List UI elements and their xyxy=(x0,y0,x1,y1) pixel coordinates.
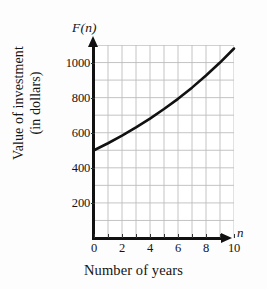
y-tick-label: 800 xyxy=(56,92,90,105)
x-axis-title: Number of years xyxy=(0,262,267,279)
x-tick-mark xyxy=(206,234,207,238)
y-axis-line xyxy=(92,44,95,240)
y-tick-label: 1000 xyxy=(56,57,90,70)
x-tick-mark xyxy=(192,234,193,238)
y-tick-mark xyxy=(91,98,95,99)
x-axis-line xyxy=(92,237,223,240)
y-tick-label: 400 xyxy=(56,162,90,175)
x-axis-symbol-label: n xyxy=(237,225,244,241)
y-axis-title-line-1: Value of investment xyxy=(11,13,28,193)
x-tick-label: 2 xyxy=(109,242,135,255)
investment-growth-curve xyxy=(94,45,234,238)
x-tick-mark xyxy=(178,234,179,238)
x-tick-mark xyxy=(234,234,235,238)
x-tick-mark xyxy=(136,234,137,238)
x-tick-label: 4 xyxy=(137,242,163,255)
x-tick-label: 8 xyxy=(193,242,219,255)
x-tick-mark xyxy=(150,234,151,238)
x-tick-mark xyxy=(164,234,165,238)
plot-area xyxy=(94,45,234,238)
y-tick-label: 600 xyxy=(56,127,90,140)
y-tick-mark xyxy=(91,203,95,204)
y-tick-mark xyxy=(91,168,95,169)
x-tick-label: 6 xyxy=(165,242,191,255)
y-axis-title-line-2: (in dollars) xyxy=(28,13,45,193)
x-tick-mark xyxy=(122,234,123,238)
chart-figure: F(n) 2004006008001000 0246810 n Number o… xyxy=(0,0,267,289)
x-tick-mark xyxy=(94,234,95,238)
x-tick-label: 0 xyxy=(81,242,107,255)
y-axis-title: Value of investment (in dollars) xyxy=(11,13,45,193)
y-tick-mark xyxy=(91,63,95,64)
x-tick-mark xyxy=(220,234,221,238)
x-tick-label: 10 xyxy=(221,242,247,255)
x-tick-mark xyxy=(108,234,109,238)
y-tick-mark xyxy=(91,133,95,134)
y-tick-label: 200 xyxy=(56,197,90,210)
